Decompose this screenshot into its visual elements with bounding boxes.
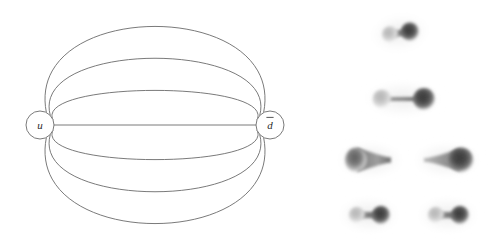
flux-tube-svg bbox=[320, 0, 493, 252]
flux-tile-4 bbox=[410, 140, 484, 180]
flux-bulb-dark bbox=[345, 148, 367, 173]
graph-edge bbox=[52, 130, 258, 159]
graph-edge bbox=[45, 137, 265, 223]
graph-edges-group bbox=[45, 26, 265, 223]
node-label: u bbox=[37, 119, 43, 131]
flux-tile-2 bbox=[360, 79, 446, 119]
node-dbar[interactable]: d bbox=[256, 111, 284, 139]
flux-lobe-dark bbox=[451, 206, 469, 224]
flux-tile-1 bbox=[366, 9, 435, 58]
flux-lobe-light bbox=[428, 207, 444, 223]
flux-lobe-dark bbox=[413, 88, 435, 110]
graph-edge bbox=[52, 90, 258, 119]
graph-edge bbox=[45, 26, 265, 112]
flux-lobe-light bbox=[373, 90, 392, 109]
flux-lobe-dark bbox=[372, 206, 390, 224]
node-u[interactable]: u bbox=[26, 111, 54, 139]
flux-tile-3 bbox=[333, 140, 407, 180]
graph-edge bbox=[49, 134, 261, 191]
flux-bulb-dark bbox=[449, 148, 474, 173]
flux-tiles-group bbox=[333, 9, 484, 235]
multigraph-panel: ud bbox=[0, 0, 320, 252]
multigraph-svg: ud bbox=[0, 0, 320, 252]
flux-tile-5 bbox=[335, 195, 403, 235]
flux-lobe-light bbox=[349, 207, 365, 223]
flux-tube-panel bbox=[320, 0, 493, 252]
flux-tile-6 bbox=[414, 195, 482, 235]
graph-edge bbox=[49, 58, 261, 115]
figure-root: ud bbox=[0, 0, 493, 252]
node-label: d bbox=[267, 119, 273, 131]
